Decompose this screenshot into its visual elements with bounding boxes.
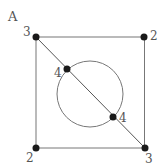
diagonal-edge <box>36 37 145 148</box>
degree-label-top-right: 2 <box>150 29 158 43</box>
degree-label-top-left: 3 <box>23 25 31 39</box>
degree-label-bottom-left: 2 <box>26 151 34 165</box>
vertex-bottom-right <box>142 145 149 152</box>
vertex-top-left <box>33 34 40 41</box>
degree-label-circle-lower: 4 <box>119 111 127 125</box>
degree-label-bottom-right: 3 <box>145 152 153 166</box>
vertex-top-right <box>141 34 148 41</box>
vertex-circle-upper <box>64 66 71 73</box>
figure-label: A <box>7 9 18 24</box>
vertex-circle-lower <box>110 114 117 121</box>
degree-label-circle-upper: 4 <box>54 66 62 80</box>
graph-diagram: A 3 2 2 3 4 4 <box>0 0 167 168</box>
